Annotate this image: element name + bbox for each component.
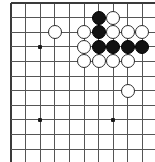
- black-stone[interactable]: [92, 25, 106, 39]
- white-stone[interactable]: [106, 54, 120, 68]
- white-stone[interactable]: [121, 84, 135, 98]
- white-stone[interactable]: [121, 54, 135, 68]
- star-point: [111, 118, 115, 122]
- black-stone[interactable]: [121, 40, 135, 54]
- go-board-diagram: [0, 0, 155, 162]
- black-stone[interactable]: [92, 40, 106, 54]
- white-stone[interactable]: [106, 25, 120, 39]
- white-stone[interactable]: [106, 11, 120, 25]
- white-stone[interactable]: [92, 54, 106, 68]
- black-stone[interactable]: [106, 40, 120, 54]
- stone-layer: [0, 0, 155, 162]
- white-stone[interactable]: [121, 25, 135, 39]
- star-point: [38, 118, 42, 122]
- black-stone[interactable]: [135, 40, 149, 54]
- black-stone[interactable]: [92, 11, 106, 25]
- white-stone[interactable]: [77, 54, 91, 68]
- star-point: [38, 45, 42, 49]
- white-stone[interactable]: [77, 25, 91, 39]
- white-stone[interactable]: [48, 25, 62, 39]
- white-stone[interactable]: [135, 25, 149, 39]
- white-stone[interactable]: [77, 40, 91, 54]
